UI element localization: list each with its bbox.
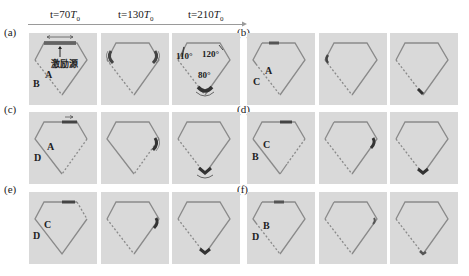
point-label: C: [253, 76, 260, 87]
diamond-outline: [29, 112, 97, 184]
panel-b-t70: A C: [247, 33, 315, 105]
panel-f-t210: [390, 192, 458, 264]
point-label: B: [33, 78, 40, 89]
point-label: A: [265, 65, 272, 76]
point-label: C: [263, 139, 270, 150]
group-label-a: (a): [4, 26, 16, 38]
diamond-outline: [319, 192, 387, 264]
point-label: D: [33, 230, 40, 241]
diamond-outline: [390, 33, 458, 105]
diamond-outline: [247, 112, 315, 184]
diamond-outline: [101, 192, 169, 264]
panel-a-t210: 110° 120° 80°: [172, 33, 240, 105]
time-axis: [28, 24, 244, 25]
panel-c-t70: A D: [29, 112, 97, 184]
panel-d-t130: [319, 112, 387, 184]
panel-d-t70: C B: [247, 112, 315, 184]
diamond-outline: [247, 33, 315, 105]
diamond-outline: [390, 192, 458, 264]
point-label: A: [45, 69, 52, 80]
panel-c-t210: [172, 112, 240, 184]
diamond-outline: [390, 112, 458, 184]
panel-e-t130: [101, 192, 169, 264]
panel-e-t210: [172, 192, 240, 264]
panel-b-t130: [319, 33, 387, 105]
angle-label-120: 120°: [202, 49, 219, 59]
point-label: A: [47, 141, 54, 152]
panel-f-t130: [319, 192, 387, 264]
diamond-outline: [172, 192, 240, 264]
diamond-outline: [172, 33, 240, 105]
panel-a-t70: 激励源 A B: [29, 33, 97, 105]
diamond-outline: [101, 112, 169, 184]
panel-e-t70: C D: [29, 192, 97, 264]
group-label-c: (c): [4, 103, 16, 115]
point-label: B: [252, 151, 259, 162]
point-label: B: [263, 220, 270, 231]
group-label-e: (e): [4, 183, 16, 195]
diamond-outline: [319, 112, 387, 184]
diamond-outline: [319, 33, 387, 105]
time-label-70: t=70T0: [50, 8, 80, 23]
diamond-outline: [172, 112, 240, 184]
diamond-outline: [101, 33, 169, 105]
angle-label-110: 110°: [176, 51, 193, 61]
point-label: D: [252, 231, 259, 242]
point-label: C: [44, 219, 51, 230]
panel-a-t130: [101, 33, 169, 105]
diamond-outline: [29, 192, 97, 264]
panel-d-t210: [390, 112, 458, 184]
excitation-source-label: 激励源: [51, 57, 78, 70]
point-label: D: [34, 152, 41, 163]
time-label-130: t=130T0: [118, 8, 153, 23]
angle-label-80: 80°: [198, 70, 211, 80]
panel-f-t70: B D: [247, 192, 315, 264]
time-label-210: t=210T0: [188, 8, 223, 23]
panel-b-t210: [390, 33, 458, 105]
panel-c-t130: [101, 112, 169, 184]
diamond-outline: [247, 192, 315, 264]
